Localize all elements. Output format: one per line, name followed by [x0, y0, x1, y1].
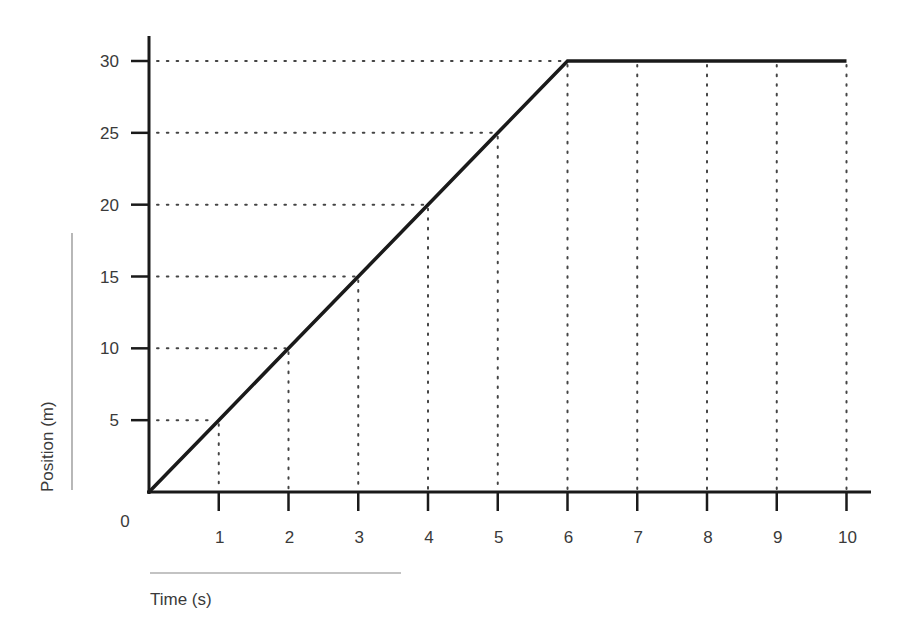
y-axis-title: Position (m)	[38, 401, 57, 492]
axis-ticks	[131, 61, 847, 511]
x-tick-label: 5	[494, 528, 503, 547]
y-tick-label: 5	[110, 411, 119, 430]
x-tick-label: 7	[634, 528, 643, 547]
axes	[147, 36, 871, 494]
x-tick-label: 6	[564, 528, 573, 547]
x-tick-label: 2	[285, 528, 294, 547]
y-tick-label: 25	[100, 124, 119, 143]
dotted-gridlines	[157, 61, 847, 489]
y-tick-label: 30	[100, 52, 119, 71]
x-tick-label: 1	[215, 528, 224, 547]
x-axis-title: Time (s)	[150, 590, 212, 609]
x-tick-label: 8	[703, 528, 712, 547]
position-time-chart: 1234567891051015202530 0 Position (m) Ti…	[0, 0, 903, 632]
x-tick-label: 3	[355, 528, 364, 547]
y-tick-label: 10	[100, 339, 119, 358]
y-tick-label: 20	[100, 196, 119, 215]
x-tick-label: 10	[838, 528, 857, 547]
y-tick-label: 15	[100, 268, 119, 287]
origin-label: 0	[120, 512, 129, 531]
tick-labels: 1234567891051015202530	[100, 52, 857, 547]
x-tick-label: 4	[424, 528, 433, 547]
x-tick-label: 9	[773, 528, 782, 547]
